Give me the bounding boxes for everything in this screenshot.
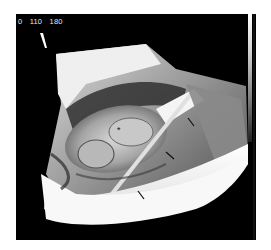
orientation-indicator-icon	[16, 14, 56, 54]
grayscale-bar	[248, 14, 252, 142]
ultrasound-panel: * 0 110 180	[16, 14, 256, 240]
asterisk-marker: *	[117, 125, 121, 135]
grayscale-bar-divider	[253, 14, 255, 240]
